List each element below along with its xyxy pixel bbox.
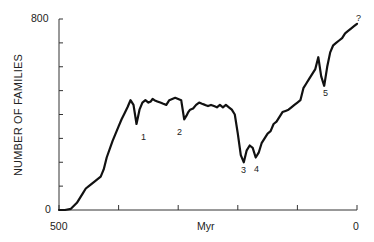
annotation-question: ? xyxy=(356,13,361,23)
axes xyxy=(59,19,357,210)
x-axis-label: Myr xyxy=(197,220,215,232)
x-tick-0: 0 xyxy=(353,220,359,232)
annotation-2: 2 xyxy=(177,127,182,137)
annotation-5: 5 xyxy=(323,88,328,98)
y-axis-label: NUMBER OF FAMILIES xyxy=(12,54,24,176)
annotation-4: 4 xyxy=(254,164,259,174)
annotation-3: 3 xyxy=(241,165,246,175)
families-line xyxy=(59,24,357,210)
x-tick-500: 500 xyxy=(50,220,68,232)
annotation-1: 1 xyxy=(141,132,146,142)
y-tick-800: 800 xyxy=(31,12,49,24)
chart-plot xyxy=(0,0,374,242)
y-tick-0: 0 xyxy=(45,203,51,215)
